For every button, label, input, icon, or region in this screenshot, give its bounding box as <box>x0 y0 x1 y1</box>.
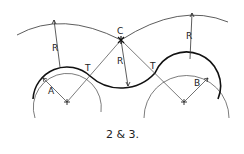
label-t-right: T <box>149 61 156 71</box>
label-r-left: R <box>52 43 58 53</box>
figure-caption: 2 & 3. <box>106 128 139 141</box>
geometric-construction-diagram: C A B R R R T T 2 & 3. <box>0 0 244 154</box>
label-c: C <box>117 26 123 36</box>
label-r-right: R <box>186 31 192 41</box>
center-marker-c <box>118 36 124 44</box>
construction-arc-right <box>121 15 228 40</box>
circle-b-thin <box>144 76 229 119</box>
label-a: A <box>48 86 55 96</box>
line-a-to-c <box>67 40 121 102</box>
label-r-center: R <box>117 56 123 66</box>
label-b: B <box>194 78 200 88</box>
construction-arc-left <box>17 24 121 40</box>
label-t-left: T <box>84 63 91 73</box>
radius-line-a <box>43 78 67 102</box>
